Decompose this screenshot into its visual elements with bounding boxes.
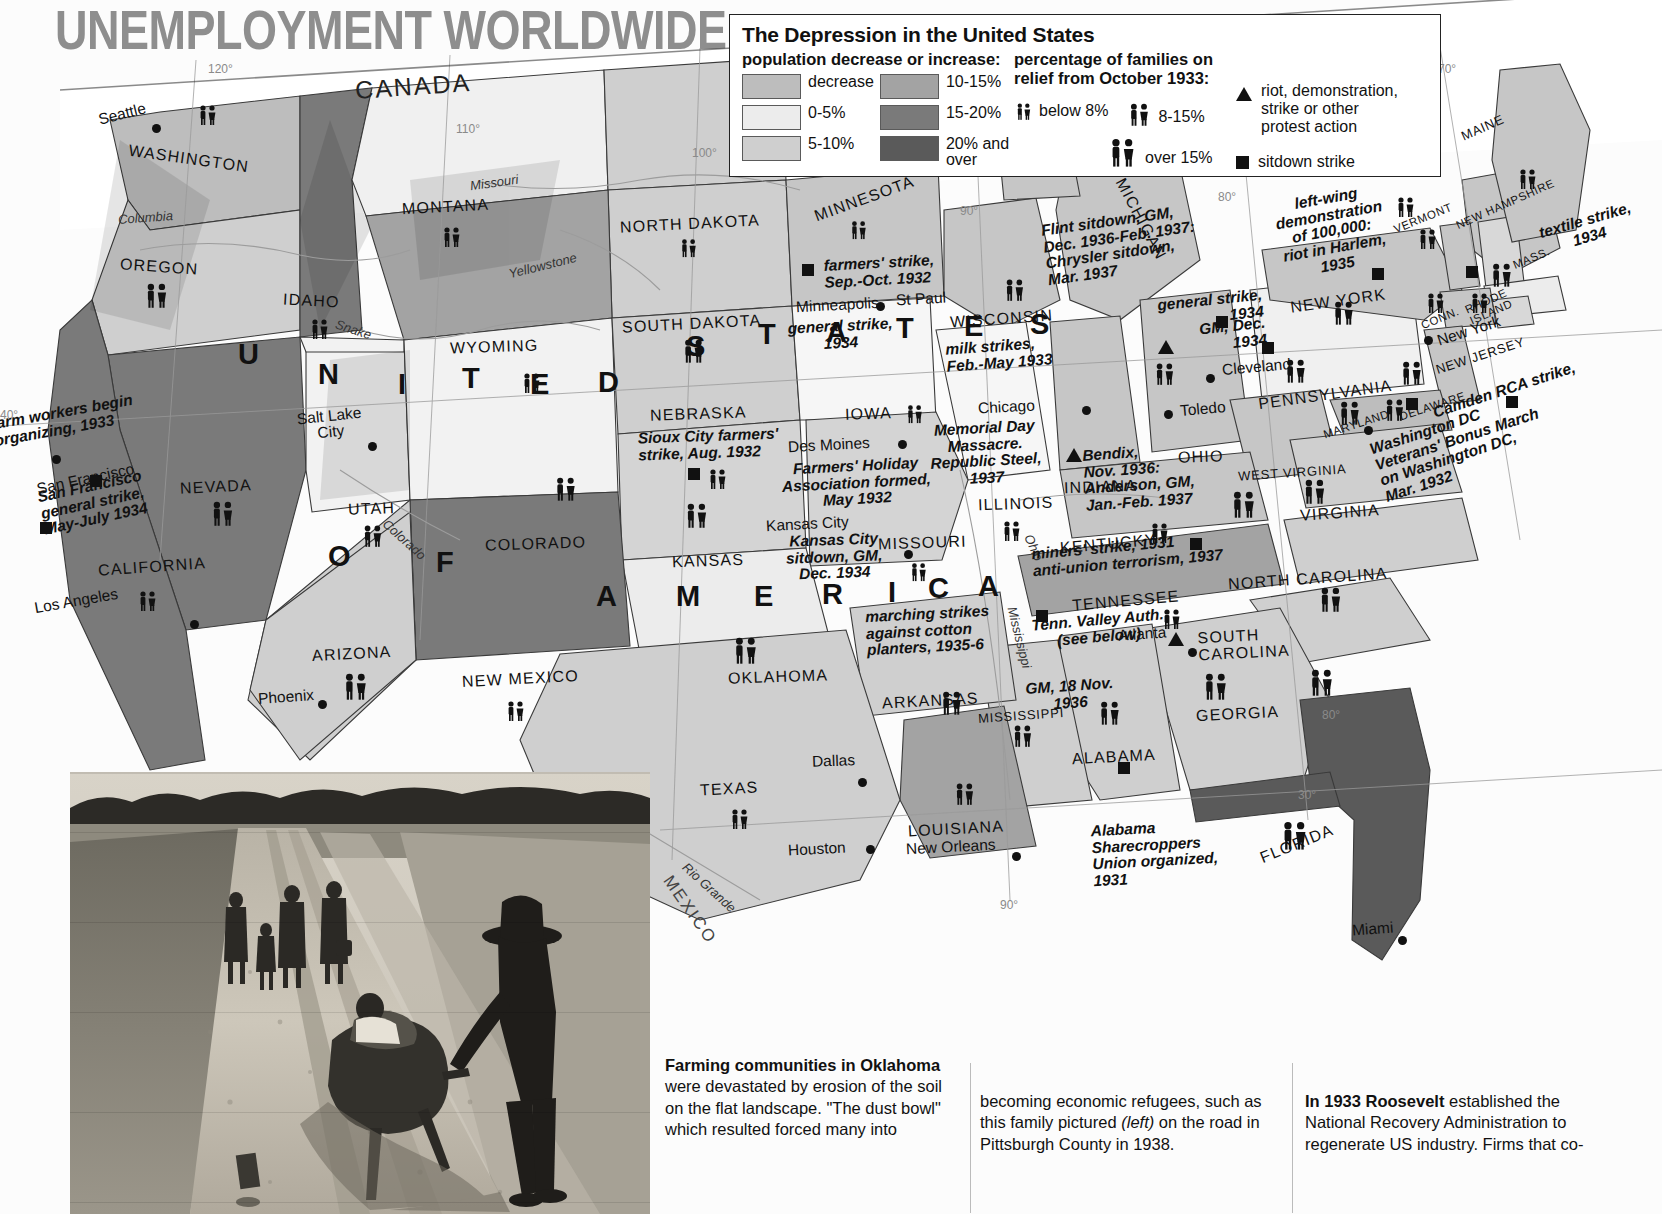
bottom-captions: Farming communities in Oklahoma were dev… <box>665 1055 1662 1214</box>
swatch-color-0-5 <box>742 105 801 130</box>
swatch-color-20-over <box>880 136 939 161</box>
relief-glyph-north-dakota <box>678 238 700 262</box>
relief-glyph-west-virginia <box>1300 478 1330 509</box>
relief-glyph-rhode-island <box>1468 292 1492 318</box>
city-dot-phoenix <box>318 700 327 709</box>
caption-3-bold: In 1933 Roosevelt <box>1305 1092 1444 1110</box>
relief-glyph-maine <box>1516 168 1540 194</box>
marker-sitdown-strike-san-francisco <box>40 522 52 534</box>
relief-glyph-oregon <box>142 282 172 313</box>
big-letter-c: C <box>928 572 949 605</box>
swatch-label-10-15: 10-15% <box>946 74 1001 90</box>
event-minnesota-farmers-strike: farmers' strike, Sep.-Oct. 1932 <box>823 252 935 291</box>
event-text: Alabama Sharecroppers Union organized, 1… <box>1090 819 1218 889</box>
relief-glyph-vermont <box>1394 196 1418 222</box>
city-dot-new-orleans <box>1012 852 1021 861</box>
relief-glyph-new-hampshire <box>1416 228 1440 254</box>
graticule-label-30n: 30° <box>1298 788 1316 802</box>
marker-sitdown-strike-minnesota <box>802 264 814 276</box>
legend-swatch-decrease: decrease <box>742 74 880 99</box>
swatch-label-5-10: 5-10% <box>808 136 854 152</box>
legend-swatch-20-over: 20% and over <box>880 136 1014 169</box>
state-label-idaho: IDAHO <box>283 291 341 312</box>
relief-glyph-texas <box>728 808 752 834</box>
state-label-kansas: KANSAS <box>672 551 745 572</box>
family-icon-large <box>1106 137 1140 168</box>
swatch-color-5-10 <box>742 136 801 161</box>
marker-sitdown-strike-gm-1934 <box>1262 342 1274 354</box>
event-minneapolis-general-strike: general strike, 1934 <box>787 315 894 354</box>
graticule-label-90w: 90° <box>960 204 978 218</box>
city-dot-twin-cities <box>876 302 885 311</box>
state-label-south-carolina: SOUTH CAROLINA <box>1197 626 1291 664</box>
marker-protest-action-indiana <box>1066 448 1082 462</box>
relief-glyph-south-carolina <box>1306 668 1338 701</box>
legend-symbol-sitdown: sitdown strike <box>1236 153 1398 171</box>
relief-glyph-nebraska <box>706 468 730 494</box>
event-text: GM, Dec. 1934 <box>1198 314 1267 351</box>
relief-glyph-wisconsin <box>1002 278 1028 306</box>
relief-glyph-florida <box>1278 820 1312 855</box>
relief-glyph-delaware <box>1382 398 1408 426</box>
big-letter-i: I <box>398 368 406 401</box>
relief-glyph-washington <box>196 104 220 130</box>
city-dot-cleveland <box>1206 374 1215 383</box>
event-gm-dec-1934: GM, Dec. 1934 <box>1198 315 1267 355</box>
relief-glyph-arkansas <box>938 690 966 720</box>
event-text: milk strikes, Feb.-May 1933 <box>945 334 1053 374</box>
state-label-wyoming: WYOMING <box>450 336 539 357</box>
legend-relief-header-line2: relief from October 1933: <box>1014 69 1236 88</box>
relief-glyph-wyoming <box>520 372 544 398</box>
legend-relief-header: percentage of families on relief from Oc… <box>1014 50 1236 88</box>
event-marching-strikes-cotton: marching strikes against cotton planters… <box>865 603 992 660</box>
legend-relief-section: percentage of families on relief from Oc… <box>1014 50 1236 188</box>
city-label-chicago: Chicago <box>978 397 1036 418</box>
big-letter-f: F <box>436 546 454 579</box>
swatch-label-20-over: 20% and over <box>946 136 1014 169</box>
relief-glyph-arizona <box>340 672 372 705</box>
city-dot-washington-dc <box>1364 426 1373 435</box>
family-icon-medium <box>1126 102 1153 127</box>
family-icon-small <box>1014 102 1034 121</box>
event-kansas-city-sitdown: Kansas City sitdown, GM, Dec. 1934 <box>785 530 883 584</box>
legend-relief-below8: below 8% <box>1014 102 1108 121</box>
caption-divider-1 <box>970 1063 971 1213</box>
big-letter-i2: I <box>888 576 896 609</box>
legend-swatch-0-5: 0-5% <box>742 105 880 130</box>
relief-glyph-ohio <box>1228 490 1260 523</box>
relief-glyph-nevada <box>208 500 238 531</box>
big-letter-u: U <box>238 338 259 371</box>
marker-sitdown-strike-arkansas <box>1036 610 1048 622</box>
marker-sitdown-strike-alabama <box>1118 762 1130 774</box>
relief-glyph-new-jersey <box>1398 360 1426 390</box>
relief-glyph-massachusetts <box>1488 262 1516 292</box>
state-label-nebraska: NEBRASKA <box>650 403 747 424</box>
legend-symbol-protest: riot, demonstration, strike or other pro… <box>1236 82 1398 136</box>
event-text: general strike, 1934 <box>787 314 893 351</box>
state-label-colorado: COLORADO <box>485 533 587 555</box>
relief-glyph-montana <box>440 226 464 252</box>
event-text: Bendix, Nov. 1936: Anderson, GM, Jan.-Fe… <box>1082 443 1195 514</box>
city-dot-miami <box>1398 936 1407 945</box>
relief-glyph-new-mexico <box>504 700 528 726</box>
relief-glyph-missouri <box>908 562 930 586</box>
big-letter-m: M <box>676 580 700 613</box>
legend-symbol-label-protest: riot, demonstration, strike or other pro… <box>1261 82 1398 136</box>
city-dot-des-moines <box>898 440 907 449</box>
big-letter-r: R <box>822 578 843 611</box>
relief-glyph-north-carolina <box>1316 586 1346 617</box>
legend-population-section: population decrease or increase: decreas… <box>742 50 1014 188</box>
caption-column-3: In 1933 Roosevelt established the Nation… <box>1305 1091 1615 1155</box>
relief-glyph-oklahoma <box>730 636 762 669</box>
relief-glyph-alabama <box>1096 700 1124 730</box>
graticule-label-120w: 120° <box>208 62 233 76</box>
legend-relief-over15: over 15% <box>1106 137 1213 168</box>
relief-glyph-kansas <box>682 502 712 533</box>
relief-glyph-new-york <box>1330 300 1358 330</box>
graticule-label-90w-south: 90° <box>1000 898 1018 912</box>
graticule-label-80w: 80° <box>1218 190 1236 204</box>
swatch-label-decrease: decrease <box>808 74 874 90</box>
relief-glyph-minnesota <box>848 220 870 244</box>
state-label-iowa: IOWA <box>845 404 892 424</box>
legend-relief-label-over15: over 15% <box>1145 149 1213 168</box>
